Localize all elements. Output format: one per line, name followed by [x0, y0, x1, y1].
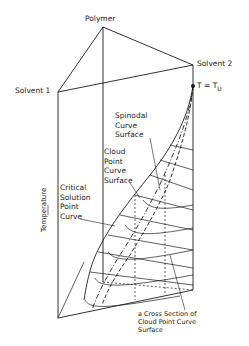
label-polymer: Polymer: [85, 14, 115, 24]
label-tu: T = TU: [197, 81, 222, 93]
label-critical: Critical Solution Point Curve: [60, 183, 91, 221]
top-triangle: [58, 27, 193, 92]
label-cloud-point: Cloud Point Curve Surface: [104, 147, 133, 185]
tu-point: [191, 84, 195, 88]
label-cross-section: a Cross Section of Cloud Point Curve Sur…: [138, 310, 196, 334]
label-temperature-axis: Temperature: [40, 188, 48, 232]
label-solvent1: Solvent 1: [15, 86, 50, 96]
label-spinodal: Spinodal Curve Surface: [115, 111, 147, 140]
label-solvent2: Solvent 2: [197, 59, 232, 69]
